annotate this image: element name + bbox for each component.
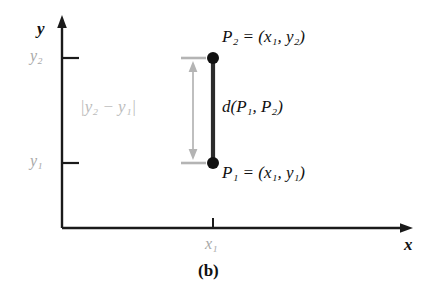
figure-caption: (b)	[198, 262, 219, 279]
point-label-p1: P₁ = (x₁, y₁)	[222, 164, 305, 181]
vertical-extent-arrowhead-up	[189, 61, 198, 72]
x1-tick-label: x₁	[205, 236, 218, 252]
y-axis-label: y	[37, 20, 45, 37]
point-label-p2: P₂ = (x₁, y₂)	[222, 28, 305, 45]
x-axis-arrowhead	[400, 223, 413, 233]
vertical-extent-label: |y₂ − y₁|	[80, 98, 136, 115]
point-marker-p2	[207, 52, 219, 64]
x-axis-label: x	[404, 236, 413, 253]
y-axis-arrowhead	[57, 15, 67, 28]
distance-label: d(P₁, P₂)	[222, 98, 283, 115]
vertical-extent-arrowhead-down	[189, 149, 198, 160]
distance-formula-figure: y x y₂ y₁ x₁ P₂ = (x₁, y₂) P₁ = (x₁, y₁)…	[0, 0, 432, 296]
y1-tick-label: y₁	[30, 153, 43, 169]
y2-tick-label: y₂	[30, 48, 43, 64]
point-marker-p1	[207, 157, 219, 169]
